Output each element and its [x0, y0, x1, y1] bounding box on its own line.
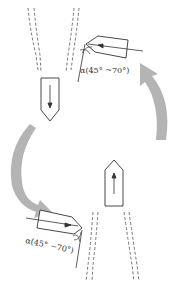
curved-arrow-left: [11, 124, 52, 218]
angle-label-top: α(45° ~70°): [80, 66, 129, 75]
curved-arrow-right: [140, 63, 167, 140]
tool-up: [105, 160, 123, 206]
lower-channel: [86, 212, 139, 281]
process-diagram: α(45° ~70°) α(45° ~70°): [0, 0, 174, 281]
angle-label-bottom: α(45° ~70°): [25, 236, 75, 255]
tool-down: [41, 78, 59, 121]
upper-channel: [28, 8, 79, 72]
tool-left-top: [78, 36, 143, 82]
